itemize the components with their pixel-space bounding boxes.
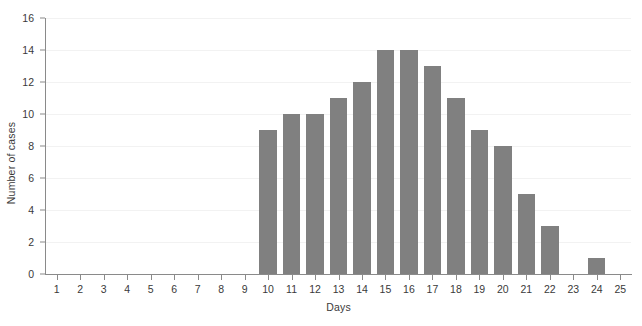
x-tick-label: 17	[427, 283, 439, 295]
x-tick-label: 8	[218, 283, 224, 295]
x-tick-label: 1	[54, 283, 60, 295]
x-tick-label: 25	[614, 283, 626, 295]
x-tick-label: 23	[567, 283, 579, 295]
x-tick-label: 24	[591, 283, 603, 295]
x-tick-label: 11	[286, 283, 297, 295]
x-tick-label: 7	[195, 283, 201, 295]
x-tick-label: 18	[450, 283, 462, 295]
x-tick-label: 9	[242, 283, 248, 295]
x-tick-label: 4	[124, 283, 130, 295]
x-tick-label: 19	[474, 283, 486, 295]
x-tick-label: 10	[262, 283, 274, 295]
x-axis-title: Days	[45, 301, 632, 313]
x-axis-tick-labels: 1234567891011121314151617181920212223242…	[0, 0, 642, 326]
x-tick-label: 3	[101, 283, 107, 295]
x-tick-label: 5	[148, 283, 154, 295]
x-tick-label: 6	[171, 283, 177, 295]
x-tick-label: 14	[356, 283, 368, 295]
x-tick-label: 13	[333, 283, 345, 295]
x-tick-label: 2	[77, 283, 83, 295]
bar-chart: Number of cases 0246810121416 1234567891…	[0, 0, 642, 326]
x-tick-label: 21	[520, 283, 532, 295]
x-tick-label: 12	[309, 283, 321, 295]
x-tick-label: 15	[380, 283, 392, 295]
x-tick-label: 22	[544, 283, 556, 295]
x-tick-label: 20	[497, 283, 509, 295]
x-tick-label: 16	[403, 283, 415, 295]
